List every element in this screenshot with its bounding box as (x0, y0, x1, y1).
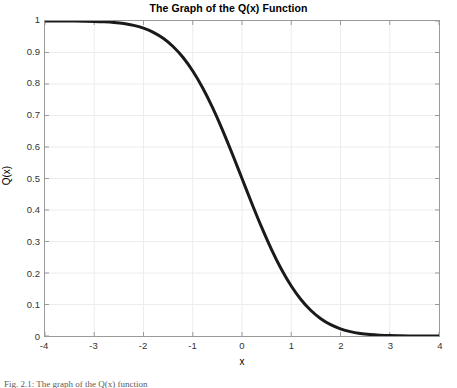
y-tick-label: 0.9 (6, 47, 40, 57)
x-axis-title: x (44, 356, 440, 367)
figure-container: The Graph of the Q(x) Function 00.10.20.… (0, 0, 457, 388)
y-tick-label: 0.4 (6, 205, 40, 215)
x-tick-label: 3 (376, 340, 406, 351)
x-axis-tick-labels: -4-3-2-101234 (0, 340, 457, 354)
y-tick-label: 0.3 (6, 237, 40, 247)
x-tick-label: -1 (178, 340, 208, 351)
x-tick-label: 2 (326, 340, 356, 351)
series-line-qx (45, 21, 439, 336)
x-tick-label: -4 (29, 340, 59, 351)
x-tick-label: -2 (128, 340, 158, 351)
y-tick-label: 0.1 (6, 300, 40, 310)
figure-caption: Fig. 2.1: The graph of the Q(x) function (4, 379, 304, 388)
q-function-curve (45, 21, 439, 336)
y-tick-label: 1 (6, 15, 40, 25)
x-tick-label: 0 (227, 340, 257, 351)
y-tick-label: 0.6 (6, 142, 40, 152)
y-tick-label: 0.2 (6, 269, 40, 279)
y-tick-label: 0.7 (6, 110, 40, 120)
y-tick-label: 0.8 (6, 78, 40, 88)
x-tick-label: 4 (425, 340, 455, 351)
x-tick-label: 1 (277, 340, 307, 351)
chart-title: The Graph of the Q(x) Function (0, 2, 457, 15)
plot-area (44, 20, 440, 337)
x-tick-label: -3 (79, 340, 109, 351)
y-axis-title: Q(x) (1, 154, 12, 198)
